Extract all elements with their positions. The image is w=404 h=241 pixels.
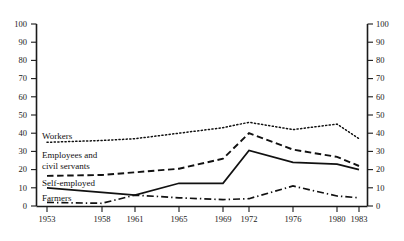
y-axis-right-tick-10: 10 xyxy=(376,184,398,193)
series-line-farmers xyxy=(47,186,359,203)
x-axis-tick-1972: 1972 xyxy=(232,215,266,224)
y-axis-left-tick-50: 50 xyxy=(5,111,27,120)
right-axis-ticks xyxy=(368,24,374,206)
y-axis-left-tick-70: 70 xyxy=(5,74,27,83)
y-axis-left-tick-40: 40 xyxy=(5,129,27,138)
series-line-workers xyxy=(47,122,359,142)
x-axis-tick-1961: 1961 xyxy=(118,215,152,224)
series-label-farmers: Farmers xyxy=(42,193,72,204)
y-axis-left-tick-100: 100 xyxy=(5,20,27,29)
x-axis-tick-1983: 1983 xyxy=(342,215,376,224)
y-axis-left-tick-80: 80 xyxy=(5,56,27,65)
y-axis-left-tick-10: 10 xyxy=(5,184,27,193)
y-axis-right-tick-90: 90 xyxy=(376,38,398,47)
y-axis-left-tick-0: 0 xyxy=(5,202,27,211)
y-axis-left-tick-60: 60 xyxy=(5,93,27,102)
y-axis-right-tick-40: 40 xyxy=(376,129,398,138)
series-label-workers: Workers xyxy=(42,131,72,142)
y-axis-right-tick-0: 0 xyxy=(376,202,398,211)
y-axis-left-tick-20: 20 xyxy=(5,165,27,174)
y-axis-right-tick-60: 60 xyxy=(376,93,398,102)
y-axis-right-tick-20: 20 xyxy=(376,165,398,174)
series-label-employees-civil-servants: Employees and civil servants xyxy=(42,150,118,171)
x-axis-tick-1953: 1953 xyxy=(30,215,64,224)
series-label-self-employed: Self-employed xyxy=(42,178,95,189)
y-axis-right-tick-70: 70 xyxy=(376,74,398,83)
y-axis-right-tick-50: 50 xyxy=(376,111,398,120)
x-axis-tick-1976: 1976 xyxy=(276,215,310,224)
chart-figure: 100 90 80 70 60 50 40 30 20 10 0 100 90 … xyxy=(0,0,404,241)
y-axis-left-tick-90: 90 xyxy=(5,38,27,47)
y-axis-left-tick-30: 30 xyxy=(5,147,27,156)
series-label-employees-line2: civil servants xyxy=(42,161,90,171)
x-axis-tick-1965: 1965 xyxy=(162,215,196,224)
series-label-employees-line1: Employees and xyxy=(42,150,97,160)
x-axis-ticks xyxy=(47,207,359,213)
y-axis-right-tick-80: 80 xyxy=(376,56,398,65)
y-axis-right-tick-100: 100 xyxy=(376,20,398,29)
chart-plot-area xyxy=(0,0,404,241)
y-axis-right-tick-30: 30 xyxy=(376,147,398,156)
x-axis-tick-1958: 1958 xyxy=(85,215,119,224)
left-axis-ticks xyxy=(31,24,37,206)
